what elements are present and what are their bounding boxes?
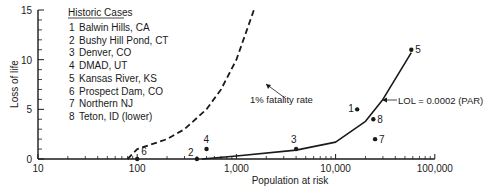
y-tick-label: 15 xyxy=(21,5,33,16)
legend-entry-id: 6 xyxy=(69,86,75,97)
legend-entry-label: Denver, CO xyxy=(79,47,131,58)
data-point xyxy=(204,147,208,151)
legend-entry-label: DMAD, UT xyxy=(79,60,127,71)
legend-entry-label: Balwin Hills, CA xyxy=(79,22,150,33)
legend-entry-label: Northern NJ xyxy=(79,98,133,109)
data-point xyxy=(371,117,375,121)
legend-entry-label: Kansas River, KS xyxy=(79,73,157,84)
legend-title: Historic Cases xyxy=(68,7,132,18)
legend-entry-id: 7 xyxy=(69,98,75,109)
legend-entry-id: 4 xyxy=(69,60,75,71)
annotation-fatality-rate: 1% fatality rate xyxy=(250,94,313,105)
data-point xyxy=(355,107,359,111)
legend-entry-id: 5 xyxy=(69,73,75,84)
chart-canvas: 101001,00010,000100,000051015 12345678 1… xyxy=(0,0,494,195)
legend-entry-id: 8 xyxy=(69,111,75,122)
point-label: 7 xyxy=(379,134,385,145)
point-label: 4 xyxy=(204,134,210,145)
arrowhead-icon xyxy=(266,84,271,89)
annotations: 1% fatality rateLOL = 0.0002 (PAR) xyxy=(250,84,483,106)
y-axis-label: Loss of life xyxy=(9,60,20,108)
x-tick-label: 100,000 xyxy=(417,163,454,174)
y-tick-label: 10 xyxy=(21,55,33,66)
legend-entry-label: Bushy Hill Pond, CT xyxy=(79,35,168,46)
point-label: 6 xyxy=(141,146,147,157)
y-tick-label: 0 xyxy=(26,154,32,165)
annotation-lol: LOL = 0.0002 (PAR) xyxy=(398,95,483,106)
point-label: 2 xyxy=(188,147,194,158)
point-label: 8 xyxy=(377,114,383,125)
x-tick-label: 10,000 xyxy=(320,163,351,174)
data-point xyxy=(373,137,377,141)
legend: Historic Cases1Balwin Hills, CA2Bushy Hi… xyxy=(68,7,168,122)
x-tick-label: 1,000 xyxy=(224,163,249,174)
x-tick-label: 10 xyxy=(32,163,44,174)
legend-entry-label: Teton, ID (lower) xyxy=(79,111,152,122)
x-tick-label: 100 xyxy=(129,163,146,174)
legend-entry-id: 2 xyxy=(69,35,75,46)
data-point xyxy=(409,48,413,52)
curves xyxy=(128,10,412,159)
point-label: 1 xyxy=(348,103,354,114)
legend-entry-id: 1 xyxy=(69,22,75,33)
x-axis-label: Population at risk xyxy=(252,175,330,186)
data-point xyxy=(294,147,298,151)
legend-entry-id: 3 xyxy=(69,47,75,58)
y-tick-label: 5 xyxy=(26,104,32,115)
data-point xyxy=(135,157,139,161)
legend-entry-label: Prospect Dam, CO xyxy=(79,86,163,97)
point-label: 3 xyxy=(291,134,297,145)
point-label: 5 xyxy=(415,44,421,55)
data-point xyxy=(195,157,199,161)
